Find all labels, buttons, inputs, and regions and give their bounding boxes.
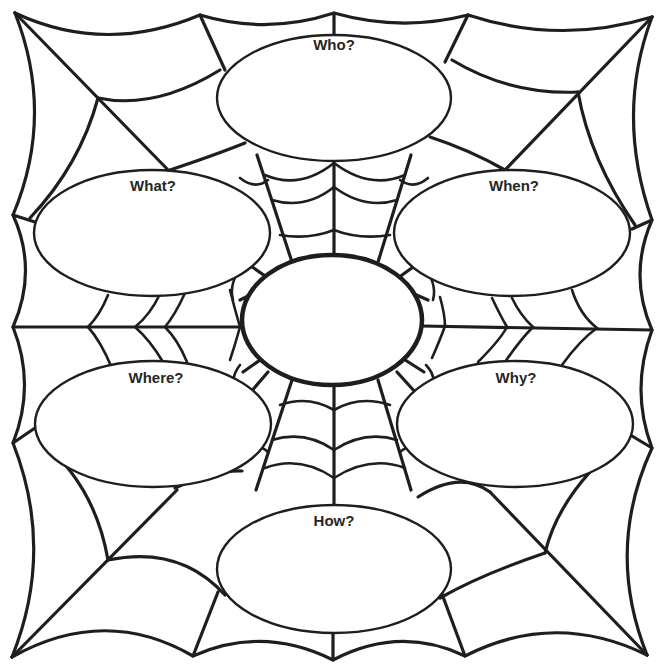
where-label: Where? (96, 370, 216, 386)
who-answer-area[interactable] (230, 58, 438, 148)
when-answer-area[interactable] (408, 198, 616, 288)
why-label: Why? (456, 370, 576, 386)
how-label: How? (274, 513, 394, 529)
center-answer-area[interactable] (257, 270, 407, 370)
what-answer-area[interactable] (48, 198, 256, 288)
where-answer-area[interactable] (49, 390, 257, 480)
how-answer-area[interactable] (230, 533, 438, 623)
why-answer-area[interactable] (411, 390, 619, 480)
when-label: When? (454, 178, 574, 194)
what-label: What? (93, 178, 213, 194)
who-label: Who? (274, 37, 394, 53)
